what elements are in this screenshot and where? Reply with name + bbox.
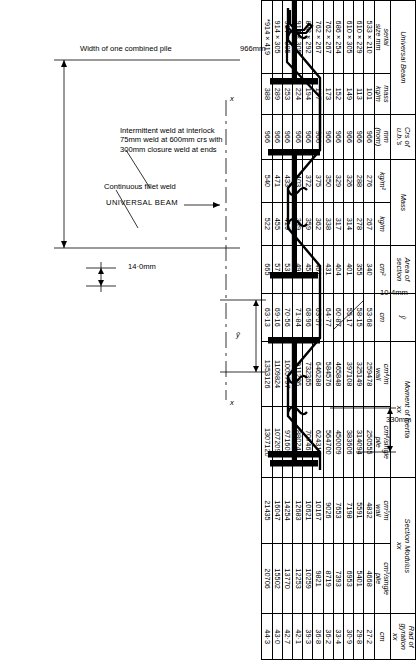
cell-crs: 966 xyxy=(323,114,333,159)
cell-area: 401 xyxy=(343,245,353,293)
col-header-Z-m-wall: cm³/m wall xyxy=(374,478,391,544)
col-header-Z-single-line1: cm³/single xyxy=(382,562,391,595)
cell-I_single: 564700 xyxy=(323,407,333,478)
cell-mass_kgm2: 433 xyxy=(282,160,292,203)
cell-area: 340 xyxy=(364,245,374,293)
cell-Z_m_wall: 10167 xyxy=(313,478,323,544)
cell-I_m_wall: 397108 xyxy=(343,341,353,407)
table-row: 914 × 30522496640338949671·8491122688024… xyxy=(293,1,303,660)
cell-Z_m_wall: 7198 xyxy=(343,478,353,544)
label-continuous-fillet-weld: Continuous fillet weld xyxy=(104,182,176,191)
cell-Z_m_wall: 21435 xyxy=(262,478,272,544)
table-row: 914 × 30525396643341953370·5610057979716… xyxy=(282,1,292,660)
cell-mass_kgm: 338 xyxy=(323,202,333,245)
col-header-I-single-line1: cm⁴/single xyxy=(382,426,391,459)
col-header-serial-size-line1: serial xyxy=(382,29,391,46)
group-y-bar: ȳ xyxy=(391,293,416,341)
label-universal-beam: UNIVERSAL BEAM xyxy=(106,198,178,207)
section-properties-table-container: Universal Beam Crs of u.b.'s Mass Area o… xyxy=(218,0,416,660)
cell-area: 458 xyxy=(303,245,313,293)
cell-crs: 966 xyxy=(364,114,374,159)
cell-I_single: 450009 xyxy=(333,407,343,478)
cell-mass_kgm: 455 xyxy=(272,202,282,245)
cell-ub_mass: 197 xyxy=(313,74,323,114)
cell-Z_single: 8719 xyxy=(323,543,333,614)
cell-Z_m_wall: 4832 xyxy=(364,478,374,544)
cell-serial_size: 914 × 305 xyxy=(282,1,292,74)
group-area-of-section: Area of section xyxy=(391,245,416,293)
cell-area: 404 xyxy=(333,245,343,293)
table-row: 533 × 21010196627626734053·6825947825055… xyxy=(364,1,374,660)
cell-Z_m_wall: 9026 xyxy=(323,478,333,544)
cell-crs: 966 xyxy=(272,114,282,159)
cell-mass_kgm2: 326 xyxy=(343,160,353,203)
cell-area: 665 xyxy=(262,245,272,293)
cell-serial_size: 762 × 267 xyxy=(313,1,323,74)
col-header-I-single-line2: pile xyxy=(374,437,383,448)
col-header-r-xx: cm xyxy=(374,614,391,660)
cell-ybar: 60·87 xyxy=(333,293,343,341)
cell-ub_mass: 289 xyxy=(272,74,282,114)
cell-Z_single: 20706 xyxy=(262,543,272,614)
cell-crs: 966 xyxy=(293,114,303,159)
cell-ybar: 58·15 xyxy=(354,293,364,341)
cell-ub_mass: 113 xyxy=(354,74,364,114)
group-universal-beam: Universal Beam xyxy=(391,1,416,115)
col-header-I-m-wall-line2: wall xyxy=(374,368,383,380)
cell-I_m_wall: 911226 xyxy=(293,341,303,407)
cell-mass_kgm2: 288 xyxy=(354,160,364,203)
label-14-0mm: 14·0mm xyxy=(128,262,156,271)
table-row: 686 × 25415296632931740460·8746584845000… xyxy=(333,1,343,660)
col-header-ub-mass-line2: kg/m xyxy=(374,86,383,102)
cell-ybar: 55·17 xyxy=(343,293,353,341)
cell-I_m_wall: 1353126 xyxy=(262,341,272,407)
cell-ub_mass: 194 xyxy=(303,74,313,114)
cell-r_xx: 36·2 xyxy=(323,614,333,660)
cell-Z_single: 4668 xyxy=(364,543,374,614)
cell-mass_kgm: 389 xyxy=(293,202,303,245)
cell-ybar: 69·16 xyxy=(272,293,282,341)
cell-Z_single: 12253 xyxy=(293,543,303,614)
col-header-Z-single: cm³/single pile xyxy=(374,543,391,614)
cell-ybar: 53·68 xyxy=(364,293,374,341)
table-row: *914 × 41938896654052266563·131353126130… xyxy=(262,1,272,660)
cell-serial_size: 533 × 210 xyxy=(364,1,374,74)
cell-I_m_wall: 732365 xyxy=(303,341,313,407)
cell-mass_kgm2: 403 xyxy=(293,160,303,203)
cell-Z_m_wall: 16047 xyxy=(272,478,282,544)
cell-ub_mass: 152 xyxy=(333,74,343,114)
cell-crs: 966 xyxy=(343,114,353,159)
col-header-Z-m-wall-line1: cm³/m xyxy=(382,500,391,520)
cell-ub_mass: 149 xyxy=(343,74,353,114)
cell-r_xx: 42·7 xyxy=(282,614,292,660)
cell-r_xx: 39·3 xyxy=(303,614,313,660)
cell-crs: 966 xyxy=(354,114,364,159)
cell-mass_kgm: 522 xyxy=(262,202,272,245)
col-header-I-m-wall: cm⁴/m wall xyxy=(374,341,391,407)
cell-I_single: 707465 xyxy=(303,407,313,478)
cell-r_xx: 44·3 xyxy=(262,614,272,660)
col-header-mass-kgm2: kg/m² xyxy=(374,160,391,203)
cell-crs: 966 xyxy=(333,114,343,159)
cell-ub_mass: 173 xyxy=(323,74,333,114)
cell-Z_m_wall: 12683 xyxy=(293,478,303,544)
cell-crs: 966 xyxy=(313,114,323,159)
cell-mass_kgm: 359 xyxy=(303,202,313,245)
col-header-I-m-wall-line1: cm⁴/m xyxy=(382,364,391,385)
table-row: 610 × 22911396628827835558·1532514931409… xyxy=(354,1,364,660)
cell-area: 533 xyxy=(282,245,292,293)
col-header-crs-line2: (nom) xyxy=(374,127,383,146)
cell-I_m_wall: 259478 xyxy=(364,341,374,407)
table-body: 533 × 21010196627626734053·6825947825055… xyxy=(262,1,374,660)
table-row: 838 × 29219496637235945868·9673236570746… xyxy=(303,1,313,660)
cell-mass_kgm: 317 xyxy=(333,202,343,245)
cell-Z_single: 6953 xyxy=(343,543,353,614)
col-header-Z-m-wall-line2: wall xyxy=(374,504,383,516)
cell-mass_kgm: 419 xyxy=(282,202,292,245)
cell-r_xx: 27·2 xyxy=(364,614,374,660)
cell-mass_kgm: 267 xyxy=(364,202,374,245)
cell-ub_mass: 253 xyxy=(282,74,292,114)
cell-serial_size: 838 × 292 xyxy=(303,1,313,74)
cell-mass_kgm2: 276 xyxy=(364,160,374,203)
cell-mass_kgm: 314 xyxy=(343,202,353,245)
